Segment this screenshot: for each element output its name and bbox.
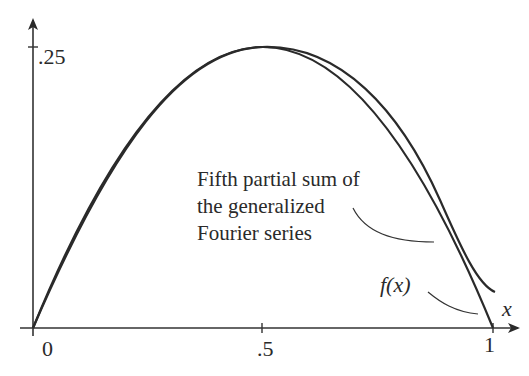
x-tick-label-1: 1	[484, 332, 495, 357]
fx-leader	[428, 292, 478, 314]
annotation-line-1: Fifth partial sum of	[197, 167, 360, 191]
chart-container: .25 0 .5 1 x Fifth partial sum of the ge…	[0, 0, 529, 376]
partial-sum-leader	[353, 208, 434, 242]
y-tick-label: .25	[38, 44, 66, 69]
fx-label: f(x)	[380, 272, 411, 297]
x-tick-label-half: .5	[257, 336, 274, 361]
x-axis-label: x	[501, 296, 512, 321]
x-tick-label-0: 0	[42, 336, 53, 361]
annotation-line-2: the generalized	[197, 194, 325, 218]
chart-svg: .25 0 .5 1 x Fifth partial sum of the ge…	[0, 0, 529, 376]
annotation-line-3: Fourier series	[197, 221, 312, 245]
